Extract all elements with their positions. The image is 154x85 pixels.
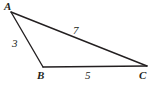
triangle-shape: [0, 0, 154, 85]
vertex-label-a: A: [4, 1, 11, 12]
side-ac-line: [11, 12, 147, 66]
side-length-label-bc: 5: [85, 70, 91, 81]
side-bc-line: [43, 66, 147, 67]
side-length-label-ab: 3: [12, 38, 18, 49]
side-length-label-ac: 7: [73, 25, 79, 36]
vertex-label-c: C: [139, 70, 146, 81]
vertex-label-b: B: [37, 70, 44, 81]
geometry-diagram: A B C 3 7 5: [0, 0, 154, 85]
